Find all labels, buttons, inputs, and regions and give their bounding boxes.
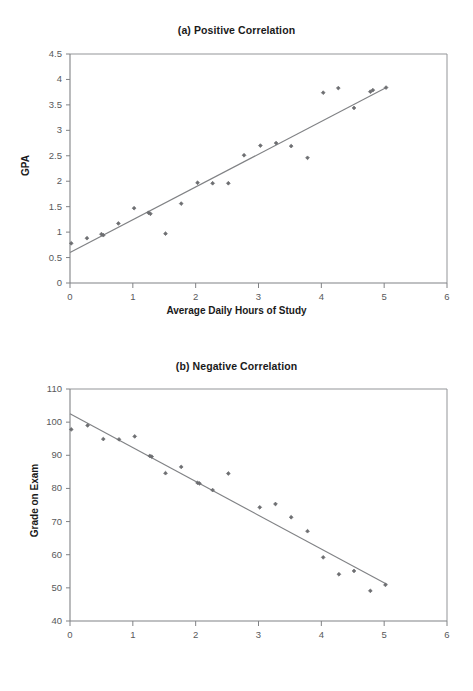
y-tick-label: 3.5 [26,99,62,110]
y-tick-label: 4 [26,73,62,84]
data-point [274,502,278,506]
data-point [179,202,183,206]
chart-a-y-axis-title: GPA [20,136,31,196]
data-point [352,569,356,573]
y-tick-label: 1 [26,226,62,237]
x-tick-label: 1 [118,629,148,640]
data-point [196,181,200,185]
x-tick-label: 6 [432,291,462,302]
chart-positive-correlation: (a) Positive Correlation Average Daily H… [0,0,473,345]
data-point [321,91,325,95]
x-tick-label: 3 [244,629,274,640]
y-tick-label: 100 [26,416,62,427]
data-point [242,153,246,157]
data-point [85,236,89,240]
data-point [289,515,293,519]
data-point [133,434,137,438]
y-tick-label: 2.5 [26,150,62,161]
y-tick-label: 110 [26,383,62,394]
data-point [306,529,310,533]
y-tick-label: 2 [26,175,62,186]
y-tick-label: 1.5 [26,201,62,212]
x-tick-label: 0 [55,629,85,640]
y-tick-label: 50 [26,582,62,593]
y-tick-label: 3 [26,124,62,135]
data-point [179,465,183,469]
data-point [101,437,105,441]
y-tick-label: 4.5 [26,48,62,59]
data-point [258,144,262,148]
x-tick-label: 3 [244,291,274,302]
y-tick-label: 80 [26,482,62,493]
chart-b-y-axis-title: Grade on Exam [29,451,40,551]
x-tick-label: 5 [369,629,399,640]
data-point [384,583,388,587]
x-tick-label: 0 [55,291,85,302]
y-tick-label: 40 [26,615,62,626]
data-point [226,181,230,185]
x-tick-label: 2 [181,629,211,640]
data-point [258,505,262,509]
data-point [337,572,341,576]
y-tick-label: 90 [26,449,62,460]
data-point [336,86,340,90]
x-tick-label: 4 [306,629,336,640]
x-tick-label: 1 [118,291,148,302]
x-tick-label: 5 [369,291,399,302]
trend-line [70,87,387,252]
data-point [132,206,136,210]
data-point [289,144,293,148]
data-point [116,222,120,226]
y-tick-label: 70 [26,516,62,527]
data-point [368,589,372,593]
chart-negative-correlation: (b) Negative Correlation Number of Beers… [0,345,473,691]
y-tick-label: 0.5 [26,252,62,263]
y-tick-label: 0 [26,277,62,288]
data-point [211,181,215,185]
x-tick-label: 4 [306,291,336,302]
data-point [306,156,310,160]
data-point [321,555,325,559]
x-tick-label: 6 [432,629,462,640]
y-tick-label: 60 [26,549,62,560]
chart-a-x-axis-title: Average Daily Hours of Study [0,305,473,316]
data-point [164,232,168,236]
data-point [352,106,356,110]
data-point [164,471,168,475]
data-point [226,472,230,476]
x-tick-label: 2 [181,291,211,302]
